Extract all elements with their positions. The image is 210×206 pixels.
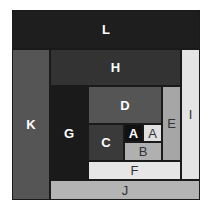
block-label: E	[167, 116, 176, 131]
block-label: B	[139, 144, 148, 159]
block-a1: A	[124, 124, 143, 142]
block-d: D	[88, 86, 162, 124]
block-label: K	[26, 117, 35, 132]
block-label: C	[101, 135, 110, 150]
block-label: H	[111, 60, 120, 75]
block-label: G	[64, 126, 74, 141]
block-c: C	[88, 124, 124, 161]
block-label: I	[189, 107, 193, 122]
block-label: F	[131, 163, 139, 178]
block-l: L	[12, 10, 200, 49]
block-f: F	[88, 161, 181, 180]
block-h: H	[50, 49, 181, 86]
block-k: K	[12, 49, 50, 200]
block-g: G	[50, 86, 88, 180]
block-a2: A	[143, 124, 162, 142]
block-i: I	[181, 49, 200, 180]
block-label: L	[102, 22, 110, 37]
block-label: D	[120, 98, 129, 113]
block-b: B	[124, 142, 162, 161]
block-label: A	[148, 126, 157, 141]
block-j: J	[50, 180, 200, 200]
block-label: J	[122, 183, 129, 198]
block-e: E	[162, 86, 181, 161]
block-label: A	[129, 126, 138, 141]
